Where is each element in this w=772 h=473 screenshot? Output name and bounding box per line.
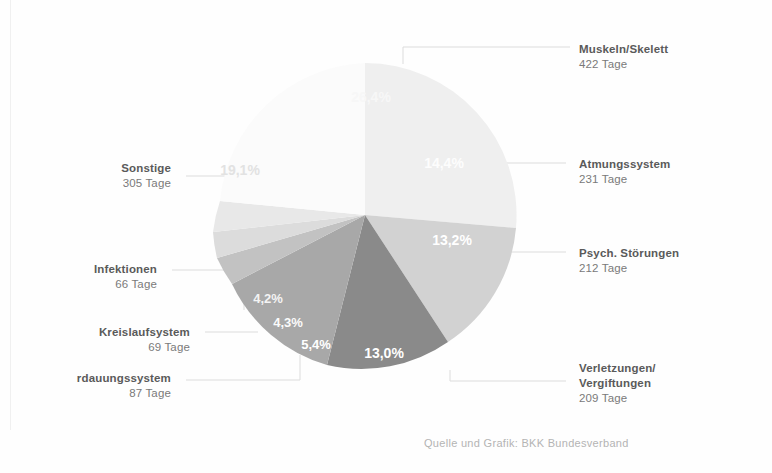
pie-slices xyxy=(213,63,517,369)
callout-atmungssystem-title: Atmungssystem xyxy=(579,157,670,172)
chart-page: 26,4% 14,4% 13,2% 13,0% 5,4% 4,3% 4,2% 1… xyxy=(0,0,772,473)
callout-verdauungssystem: rdauungssystem 87 Tage xyxy=(0,371,171,401)
pct-label-sonstige: 19,1% xyxy=(220,162,260,178)
callout-muskeln-skelett: Muskeln/Skelett 422 Tage xyxy=(579,42,668,72)
pct-label-verletzungen: 13,0% xyxy=(364,345,404,361)
callout-verdauungssystem-title: rdauungssystem xyxy=(0,371,171,386)
callout-psych-days: 212 Tage xyxy=(579,261,679,276)
pie-slice-muskeln xyxy=(365,63,517,228)
callout-verdauungssystem-days: 87 Tage xyxy=(0,386,171,401)
callout-sonstige-title: Sonstige xyxy=(0,161,171,176)
leader-line-muskeln xyxy=(403,47,570,64)
source-attribution: Quelle und Grafik: BKK Bundesverband xyxy=(424,437,629,449)
leader-line-verletzungen xyxy=(450,370,566,381)
callout-kreislaufsystem-days: 69 Tage xyxy=(0,340,190,355)
callout-sonstige: Sonstige 305 Tage xyxy=(0,161,171,191)
leader-line-verdauungssystem xyxy=(186,355,300,380)
callout-atmungssystem-days: 231 Tage xyxy=(579,172,670,187)
callout-kreislaufsystem: Kreislaufsystem 69 Tage xyxy=(0,325,190,355)
pct-label-kreislaufsystem: 4,3% xyxy=(273,315,303,330)
callout-kreislaufsystem-title: Kreislaufsystem xyxy=(0,325,190,340)
callout-sonstige-days: 305 Tage xyxy=(0,176,171,191)
pct-label-verdauungssystem: 5,4% xyxy=(301,337,331,352)
callout-infektionen-title: Infektionen xyxy=(0,262,157,277)
pct-label-infektionen: 4,2% xyxy=(253,291,283,306)
callout-psych-title: Psych. Störungen xyxy=(579,246,679,261)
pie-chart: 26,4% 14,4% 13,2% 13,0% 5,4% 4,3% 4,2% 1… xyxy=(0,0,772,473)
callout-muskeln-title: Muskeln/Skelett xyxy=(579,42,668,57)
callout-verletzungen-days: 209 Tage xyxy=(579,391,656,406)
callout-verletzungen-title: Verletzungen/ xyxy=(579,361,656,376)
pct-label-atmungssystem: 14,4% xyxy=(424,155,464,171)
callout-psych-stoerungen: Psych. Störungen 212 Tage xyxy=(579,246,679,276)
callout-infektionen-days: 66 Tage xyxy=(0,277,157,292)
pct-label-psych: 13,2% xyxy=(432,232,472,248)
callout-atmungssystem: Atmungssystem 231 Tage xyxy=(579,157,670,187)
callout-verletzungen-vergiftungen: Verletzungen/ Vergiftungen 209 Tage xyxy=(579,361,656,407)
pct-label-muskeln: 26,4% xyxy=(351,89,391,105)
pie-slice-sonstige xyxy=(220,63,365,215)
callout-verletzungen-title2: Vergiftungen xyxy=(579,376,656,391)
callout-infektionen: Infektionen 66 Tage xyxy=(0,262,157,292)
callout-muskeln-days: 422 Tage xyxy=(579,57,668,72)
